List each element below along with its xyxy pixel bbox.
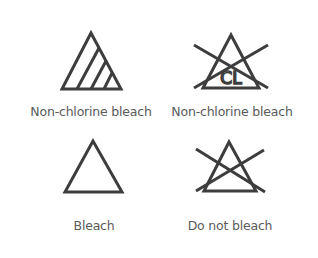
label-do-not-bleach: Do not bleach <box>175 218 285 233</box>
cl-letters: CL <box>220 68 242 88</box>
bleach-icon <box>65 141 122 192</box>
non-chlorine-bleach-icon <box>62 33 121 89</box>
label-non-chlorine-bleach: Non-chlorine bleach <box>18 104 164 119</box>
label-bleach: Bleach <box>44 218 144 233</box>
label-do-not-non-chlorine-bleach: Non-chlorine bleach <box>159 104 305 119</box>
do-not-bleach-icon <box>196 142 265 192</box>
